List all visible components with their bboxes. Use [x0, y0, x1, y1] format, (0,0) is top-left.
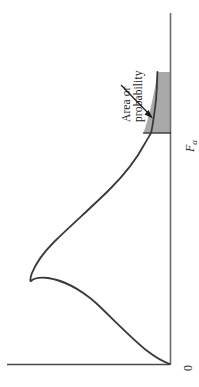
area-or-probability-annotation: Area or probability	[120, 70, 144, 122]
f-alpha-base: F	[183, 145, 197, 152]
origin-axis-label: 0	[182, 365, 195, 371]
distribution-plot	[0, 0, 199, 387]
f-alpha-axis-label: Fα	[184, 140, 199, 152]
annotation-line-2: probability	[132, 70, 144, 122]
f-alpha-subscript: α	[189, 140, 199, 144]
f-distribution-figure: Area or probability Fα 0	[0, 0, 199, 387]
annotation-line-1: Area or	[120, 70, 132, 122]
